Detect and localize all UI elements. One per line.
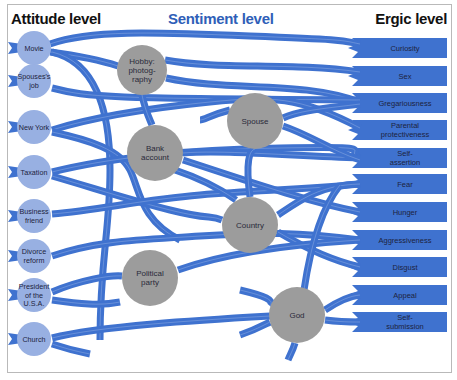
ergic-label: Aggressiveness — [379, 236, 432, 245]
attitude-label: Movie — [24, 44, 43, 53]
ergic-sex: Sex — [348, 66, 447, 86]
attitude-node-church: Church — [8, 322, 51, 356]
attitude-label: job — [28, 81, 39, 90]
sentiment-label: Bank — [146, 144, 165, 153]
sentiment-label: God — [289, 311, 304, 320]
ergic-label: Curiosity — [390, 44, 419, 53]
sentiment-node-bank: Bankaccount — [127, 125, 183, 181]
attitude-label: New York — [19, 123, 50, 132]
sentiment-label: account — [141, 153, 170, 162]
ergic-label: Hunger — [393, 208, 418, 217]
sentiment-label: photog- — [128, 66, 155, 75]
sentiment-node-party: Politicalparty — [122, 250, 178, 306]
sentiment-node-spouse: Spouse — [227, 93, 283, 149]
sentiment-node-country: Country — [222, 197, 278, 253]
sentiment-level-header: Sentiment level — [168, 10, 274, 27]
diagram-canvas: CuriositySexGregariousnessParentalprotec… — [0, 0, 457, 380]
connection-path — [52, 276, 122, 292]
ergic-label: protectiveness — [381, 130, 430, 139]
connection-path — [52, 344, 90, 354]
connection-path — [283, 104, 360, 118]
attitude-label: Church — [22, 335, 45, 344]
ergic-hunger: Hunger — [348, 202, 447, 222]
connection-path — [52, 316, 270, 338]
attitude-label: friend — [25, 216, 43, 225]
sentiment-label: party — [141, 278, 159, 287]
ergic-label: submission — [386, 322, 424, 331]
ergic-self-assertion: Self-assertion — [348, 148, 447, 168]
attitude-node-president: Presidentof theU.S.A. — [8, 278, 51, 312]
sentiment-label: Political — [136, 269, 164, 278]
sentiment-label: Country — [236, 221, 264, 230]
ergic-label: Fear — [397, 180, 413, 189]
ergic-level-header: Ergic level — [375, 10, 447, 27]
ergic-bands: CuriositySexGregariousnessParentalprotec… — [348, 38, 447, 332]
attitude-node-taxation: Taxation — [8, 155, 51, 189]
ergic-disgust: Disgust — [348, 257, 447, 277]
ergic-fear: Fear — [348, 174, 447, 194]
sentiment-label: Spouse — [241, 117, 269, 126]
ergic-label: Disgust — [392, 263, 418, 272]
ergic-curiosity: Curiosity — [348, 38, 447, 58]
attitude-label: Taxation — [21, 168, 48, 177]
ergic-label: Appeal — [393, 291, 417, 300]
sentiment-label: raphy — [132, 75, 152, 84]
ergic-aggressiveness: Aggressiveness — [348, 230, 447, 250]
sentiment-node-god: God — [269, 287, 325, 343]
sentiment-label: Hobby: — [129, 57, 154, 66]
ergic-label: assertion — [390, 158, 420, 167]
attitude-node-new-york: New York — [8, 110, 51, 144]
sentiment-node-hobby: Hobby:photog-raphy — [117, 45, 167, 95]
ergic-label: Sex — [399, 72, 412, 81]
attitude-label: U.S.A. — [24, 299, 45, 308]
attitude-node-divorce-reform: Divorcereform — [8, 239, 51, 273]
ergic-parental: Parentalprotectiveness — [348, 120, 447, 140]
ergic-band — [348, 66, 447, 86]
attitude-level-header: Attitude level — [11, 10, 101, 27]
attitude-label: reform — [24, 256, 45, 265]
ergic-self-submission: Self-submission — [348, 312, 447, 332]
ergic-label: Gregariousness — [379, 99, 432, 108]
attitude-nodes: MovieSpouses'sjobNew YorkTaxationBusines… — [8, 31, 51, 356]
ergic-gregariousness: Gregariousness — [348, 93, 447, 113]
ergic-appeal: Appeal — [348, 285, 447, 305]
attitude-node-business-friend: Businessfriend — [8, 199, 51, 233]
attitude-node-spouses-job: Spouses'sjob — [8, 64, 51, 98]
attitude-node-movie: Movie — [8, 31, 51, 65]
